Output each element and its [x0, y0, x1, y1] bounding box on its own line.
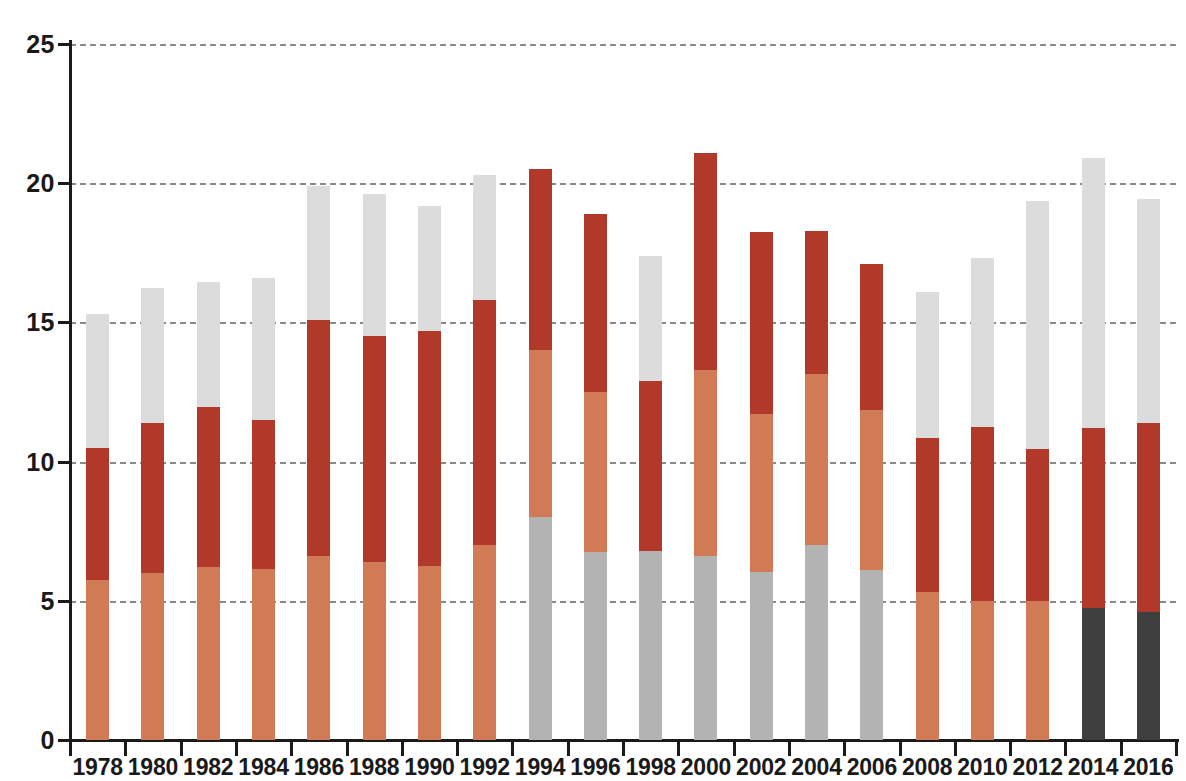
bar-segment-1980-salmon — [141, 573, 164, 740]
y-tick-label-0: 0 — [41, 726, 55, 755]
x-tick-label-1984: 1984 — [238, 754, 288, 781]
bar-1986[interactable] — [307, 44, 330, 740]
bar-segment-2014-dark_red — [1082, 428, 1105, 608]
bar-1978[interactable] — [86, 44, 109, 740]
bar-2002[interactable] — [750, 44, 773, 740]
bar-2010[interactable] — [971, 44, 994, 740]
x-tick-label-2002: 2002 — [736, 754, 786, 781]
bar-segment-1988-dark_red — [363, 336, 386, 562]
bar-segment-1996-dark_red — [584, 214, 607, 392]
y-tick-mark-10 — [58, 461, 72, 464]
bar-segment-1978-salmon — [86, 580, 109, 740]
bar-segment-2000-salmon — [694, 370, 717, 557]
x-tick-label-1982: 1982 — [183, 754, 233, 781]
bar-segment-1978-light_gray — [86, 314, 109, 448]
bar-1992[interactable] — [473, 44, 496, 740]
bar-1984[interactable] — [252, 44, 275, 740]
bar-segment-2006-dark_red — [860, 264, 883, 410]
bar-segment-1996-salmon — [584, 392, 607, 552]
bar-segment-1992-dark_red — [473, 300, 496, 545]
bar-segment-2000-dark_red — [694, 153, 717, 370]
y-tick-label-20: 20 — [26, 169, 55, 198]
bar-segment-1990-light_gray — [418, 206, 441, 331]
bar-segment-2002-mid_gray — [750, 572, 773, 740]
bar-2012[interactable] — [1026, 44, 1049, 740]
bar-segment-1986-salmon — [307, 556, 330, 740]
y-tick-mark-20 — [58, 182, 72, 185]
bar-1988[interactable] — [363, 44, 386, 740]
bar-segment-1998-light_gray — [639, 256, 662, 381]
bar-segment-2012-salmon — [1026, 601, 1049, 740]
bar-segment-2006-mid_gray — [860, 570, 883, 740]
gridline-15 — [70, 322, 1176, 324]
bar-segment-1988-light_gray — [363, 194, 386, 336]
bar-1996[interactable] — [584, 44, 607, 740]
bar-1990[interactable] — [418, 44, 441, 740]
x-tick-label-2016: 2016 — [1123, 754, 1173, 781]
bar-1998[interactable] — [639, 44, 662, 740]
y-tick-mark-5 — [58, 600, 72, 603]
bar-segment-2016-dark_red — [1137, 423, 1160, 612]
x-tick-mark-end — [1175, 741, 1178, 756]
gridline-10 — [70, 462, 1176, 464]
x-tick-label-2014: 2014 — [1068, 754, 1118, 781]
bar-segment-1986-light_gray — [307, 186, 330, 320]
x-tick-label-1996: 1996 — [570, 754, 620, 781]
bar-segment-2012-light_gray — [1026, 201, 1049, 449]
bar-segment-2016-charcoal — [1137, 612, 1160, 740]
bar-segment-1998-dark_red — [639, 381, 662, 551]
bar-2014[interactable] — [1082, 44, 1105, 740]
bar-segment-1994-dark_red — [529, 169, 552, 350]
bar-segment-1984-light_gray — [252, 278, 275, 420]
chart-figure: 0510152025 19781980198219841986198819901… — [0, 0, 1186, 781]
bar-segment-2002-dark_red — [750, 232, 773, 414]
x-tick-label-1998: 1998 — [625, 754, 675, 781]
y-tick-mark-25 — [58, 43, 72, 46]
bar-segment-1982-light_gray — [197, 282, 220, 407]
bar-2006[interactable] — [860, 44, 883, 740]
bar-segment-2004-salmon — [805, 374, 828, 545]
bar-segment-1984-dark_red — [252, 420, 275, 569]
bar-segment-2004-dark_red — [805, 231, 828, 374]
gridline-25 — [70, 44, 1176, 46]
bar-segment-1992-light_gray — [473, 175, 496, 300]
bar-segment-2002-salmon — [750, 414, 773, 571]
x-tick-label-1980: 1980 — [128, 754, 178, 781]
x-tick-label-2004: 2004 — [791, 754, 841, 781]
gridline-5 — [70, 601, 1176, 603]
bar-1980[interactable] — [141, 44, 164, 740]
x-tick-label-2006: 2006 — [847, 754, 897, 781]
bar-segment-2000-mid_gray — [694, 556, 717, 740]
bar-2016[interactable] — [1137, 44, 1160, 740]
x-tick-label-1986: 1986 — [294, 754, 344, 781]
bar-1982[interactable] — [197, 44, 220, 740]
bar-segment-1986-dark_red — [307, 320, 330, 557]
bar-segment-1994-mid_gray — [529, 517, 552, 740]
x-tick-label-2008: 2008 — [902, 754, 952, 781]
bar-segment-1990-salmon — [418, 566, 441, 740]
bar-segment-2006-salmon — [860, 410, 883, 570]
y-axis-line — [69, 40, 72, 744]
y-tick-mark-15 — [58, 321, 72, 324]
bar-segment-1980-dark_red — [141, 423, 164, 573]
x-tick-label-2010: 2010 — [957, 754, 1007, 781]
bar-segment-1982-dark_red — [197, 407, 220, 567]
bar-2008[interactable] — [916, 44, 939, 740]
bar-segment-1994-salmon — [529, 350, 552, 517]
bar-segment-2010-salmon — [971, 601, 994, 740]
x-tick-label-1978: 1978 — [72, 754, 122, 781]
x-tick-label-1994: 1994 — [515, 754, 565, 781]
bar-segment-1990-dark_red — [418, 331, 441, 566]
y-tick-label-15: 15 — [26, 308, 55, 337]
y-tick-label-10: 10 — [26, 447, 55, 476]
bar-segment-1992-salmon — [473, 545, 496, 740]
bar-2004[interactable] — [805, 44, 828, 740]
bar-1994[interactable] — [529, 44, 552, 740]
bar-segment-2008-dark_red — [916, 438, 939, 593]
bar-2000[interactable] — [694, 44, 717, 740]
bar-segment-1978-dark_red — [86, 448, 109, 580]
x-tick-label-2000: 2000 — [681, 754, 731, 781]
bar-segment-2012-dark_red — [1026, 449, 1049, 601]
bar-segment-2010-dark_red — [971, 427, 994, 601]
bar-segment-2008-salmon — [916, 592, 939, 740]
